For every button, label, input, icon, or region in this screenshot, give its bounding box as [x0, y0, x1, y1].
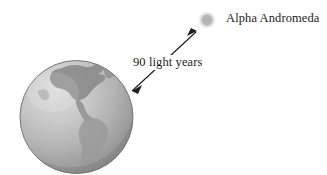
earth-globe: [20, 61, 133, 175]
star-label: Alpha Andromeda: [226, 12, 320, 25]
distance-label: 90 light years: [131, 55, 204, 70]
earth-specular-highlight: [27, 72, 79, 112]
alpha-andromeda-star: [198, 11, 217, 30]
astronomy-distance-diagram: 90 light years Alpha Andromeda: [0, 0, 327, 174]
star-core: [202, 15, 212, 25]
diagram-canvas: [0, 0, 327, 174]
